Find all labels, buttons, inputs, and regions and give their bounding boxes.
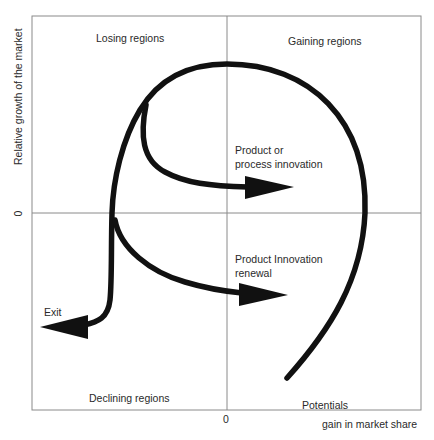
y-axis-label: Relative growth of the market <box>12 28 24 165</box>
upper-branch-label-line1: Product or <box>235 144 283 157</box>
lower-branch-label-line1: Product Innovation <box>235 253 323 266</box>
lifecycle-diagram <box>0 0 434 440</box>
quadrant-label-gaining: Gaining regions <box>288 35 362 48</box>
quadrant-label-losing: Losing regions <box>96 32 164 45</box>
y-axis-zero-tick: 0 <box>12 211 25 217</box>
upper-branch-curve <box>143 105 248 187</box>
upper-branch-arrow-icon <box>245 176 294 199</box>
quadrant-label-declining: Declining regions <box>89 392 170 405</box>
quadrant-label-potentials: Potentials <box>302 399 348 412</box>
lower-branch-arrow-icon <box>239 283 288 306</box>
upper-branch-label-line2: process innovation <box>235 158 323 171</box>
x-axis-zero-tick: 0 <box>223 413 229 426</box>
main-trajectory-curve <box>84 64 365 378</box>
exit-label: Exit <box>44 306 62 319</box>
lower-branch-label-line2: renewal <box>235 267 272 280</box>
lower-branch-curve <box>115 220 242 293</box>
x-axis-label: gain in market share <box>322 418 417 431</box>
